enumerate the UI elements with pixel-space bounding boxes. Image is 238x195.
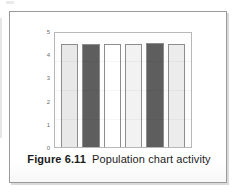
plot-area xyxy=(54,32,192,148)
bar xyxy=(146,43,163,147)
y-tick-label: 1 xyxy=(36,122,50,128)
y-tick-label: 0 xyxy=(36,145,50,151)
figure-caption-text: Population chart activity xyxy=(92,153,211,165)
figure-caption-label: Figure 6.11 xyxy=(27,153,86,165)
y-tick-label: 2 xyxy=(36,99,50,105)
y-tick-label: 5 xyxy=(36,29,50,35)
bar xyxy=(61,44,78,147)
y-axis-tick-labels: 543210 xyxy=(36,32,50,148)
plot-inner xyxy=(55,33,191,147)
scan-artifact-edge xyxy=(0,18,2,138)
bar xyxy=(168,44,185,147)
bar xyxy=(125,44,142,147)
bar xyxy=(82,44,99,147)
scan-artifact-speck xyxy=(6,1,14,4)
y-tick-label: 3 xyxy=(36,75,50,81)
bar-chart: 543210 xyxy=(10,18,228,150)
y-tick-label: 4 xyxy=(36,52,50,58)
figure-caption: Figure 6.11 Population chart activity xyxy=(10,152,228,166)
bar xyxy=(104,44,121,147)
figure-card: 543210 Figure 6.11 Population chart acti… xyxy=(9,11,227,183)
